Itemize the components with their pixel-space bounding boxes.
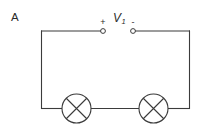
circuit-diagram-figure: + - V 1 A [0, 0, 209, 129]
panel-label: A [11, 11, 19, 23]
circuit-schematic: + - V 1 A [0, 0, 209, 129]
polarity-minus-label: - [132, 17, 135, 27]
terminal-negative-node [131, 29, 136, 34]
terminal-positive-node [101, 29, 106, 34]
voltmeter-subscript-label: 1 [122, 17, 126, 26]
polarity-plus-label: + [100, 17, 105, 27]
